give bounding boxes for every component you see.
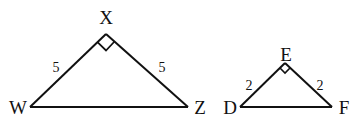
vertex-label-d: D [223,97,237,118]
right-angle-marker-x [98,42,115,51]
triangle-def: E D F 2 2 [223,44,349,118]
side-wx [30,34,106,107]
vertex-label-w: W [9,97,27,118]
triangle-wxz: X W Z 5 5 [9,7,206,118]
vertex-label-e: E [280,44,292,65]
vertex-label-z: Z [194,97,206,118]
side-length-ef: 2 [317,78,324,93]
similar-triangles-diagram: X W Z 5 5 E D F 2 2 [0,0,359,123]
side-ef [285,63,332,107]
vertex-label-x: X [99,7,113,28]
vertex-label-f: F [339,97,350,118]
side-length-wx: 5 [53,60,60,75]
side-xz [106,34,188,107]
side-length-de: 2 [246,78,253,93]
side-length-xz: 5 [159,60,166,75]
right-angle-marker-e [280,68,290,73]
